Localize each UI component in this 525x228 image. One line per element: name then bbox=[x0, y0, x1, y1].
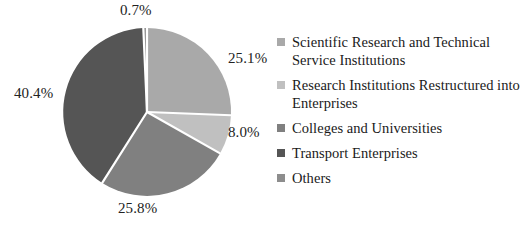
legend-swatch-icon bbox=[277, 38, 285, 46]
legend-item-label: Others bbox=[292, 169, 331, 187]
legend-item-colleges-universities[interactable]: Colleges and Universities bbox=[277, 119, 523, 137]
chart-legend: Scientific Research and Technical Servic… bbox=[277, 33, 523, 194]
legend-swatch-icon bbox=[277, 174, 285, 182]
slice-label-scientific-research: 25.1% bbox=[228, 50, 267, 67]
legend-item-label: Transport Enterprises bbox=[292, 144, 418, 162]
legend-item-label: Scientific Research and Technical Servic… bbox=[292, 33, 523, 69]
legend-swatch-icon bbox=[277, 81, 285, 89]
legend-item-scientific-research[interactable]: Scientific Research and Technical Servic… bbox=[277, 33, 523, 69]
slice-label-others: 0.7% bbox=[120, 2, 152, 19]
slice-label-colleges-universities: 25.8% bbox=[118, 200, 157, 217]
pie-plot-area: 0.7% 25.1% 8.0% 25.8% 40.4% bbox=[0, 0, 262, 228]
legend-item-transport-enterprises[interactable]: Transport Enterprises bbox=[277, 144, 523, 162]
slice-label-restructured-enterprises: 8.0% bbox=[228, 124, 260, 141]
legend-item-others[interactable]: Others bbox=[277, 169, 523, 187]
slice-label-transport-enterprises: 40.4% bbox=[14, 85, 53, 102]
pie-slice-scientific-research[interactable] bbox=[147, 28, 231, 115]
legend-item-label: Colleges and Universities bbox=[292, 119, 442, 137]
legend-item-restructured-enterprises[interactable]: Research Institutions Restructured into … bbox=[277, 76, 523, 112]
pie-chart-figure: 0.7% 25.1% 8.0% 25.8% 40.4% Scientific R… bbox=[0, 0, 525, 228]
legend-swatch-icon bbox=[277, 124, 285, 132]
legend-swatch-icon bbox=[277, 149, 285, 157]
legend-item-label: Research Institutions Restructured into … bbox=[292, 76, 523, 112]
pie-svg bbox=[0, 0, 262, 228]
